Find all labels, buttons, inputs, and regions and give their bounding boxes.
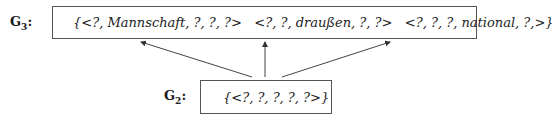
g2-node-content: {<?, ?, ?, ?, ?>} bbox=[223, 90, 329, 105]
g2-node-box: {<?, ?, ?, ?, ?>} bbox=[200, 80, 332, 114]
g2-label-colon: : bbox=[181, 88, 186, 103]
edge-right-arrow bbox=[282, 42, 390, 77]
g2-label: G2: bbox=[164, 88, 186, 106]
g2-label-main: G bbox=[164, 88, 175, 103]
edge-left-arrow bbox=[141, 42, 252, 77]
